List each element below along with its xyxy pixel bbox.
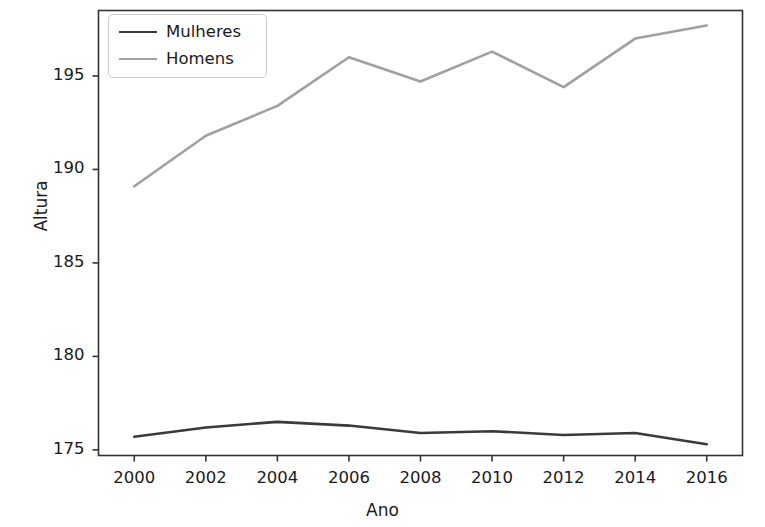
x-axis-label: Ano	[0, 500, 765, 520]
y-tick-label-175: 175	[25, 439, 85, 458]
x-tick-label-2016: 2016	[672, 468, 742, 487]
y-tick-label-180: 180	[25, 345, 85, 364]
x-tick-label-2000: 2000	[99, 468, 169, 487]
x-tick-label-2006: 2006	[314, 468, 384, 487]
legend-label-homens: Homens	[166, 51, 234, 68]
chart-legend: Mulheres Homens	[108, 14, 267, 78]
line-chart-plot	[0, 0, 765, 527]
axis-ticks	[93, 76, 707, 462]
legend-label-mulheres: Mulheres	[166, 24, 241, 41]
y-tick-label-190: 190	[25, 158, 85, 177]
legend-swatch-mulheres	[119, 31, 157, 33]
x-tick-label-2012: 2012	[529, 468, 599, 487]
x-tick-label-2002: 2002	[171, 468, 241, 487]
y-tick-label-195: 195	[25, 65, 85, 84]
x-tick-label-2004: 2004	[242, 468, 312, 487]
x-tick-label-2014: 2014	[600, 468, 670, 487]
legend-swatch-homens	[119, 58, 157, 60]
legend-item-homens: Homens	[119, 46, 234, 72]
x-tick-label-2008: 2008	[386, 468, 456, 487]
series-line-mulheres	[134, 422, 706, 444]
data-series	[134, 25, 706, 444]
y-tick-label-185: 185	[25, 252, 85, 271]
x-tick-label-2010: 2010	[457, 468, 527, 487]
legend-item-mulheres: Mulheres	[119, 19, 241, 45]
chart-figure: Altura Ano 175180185190195 2000200220042…	[0, 0, 765, 527]
y-axis-label: Altura	[31, 171, 51, 241]
